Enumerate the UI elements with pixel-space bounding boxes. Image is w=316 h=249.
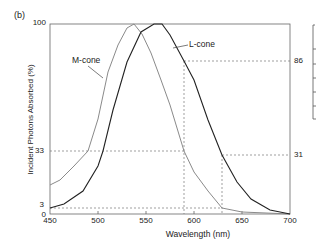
x-tick-650: 650 — [230, 216, 254, 225]
m-cone-leader — [88, 66, 103, 78]
right-tick-31: 31 — [294, 150, 303, 159]
dashed-guides — [50, 61, 290, 214]
right-inset-box — [313, 25, 316, 119]
y-tick-3: 3 — [24, 200, 44, 209]
l-cone-label: L-cone — [189, 39, 215, 49]
x-axis-ticks — [98, 211, 242, 214]
y-tick-100: 100 — [26, 18, 46, 27]
right-tick-86: 86 — [294, 56, 303, 65]
y-axis-label: Incident Photons Absorbed (%) — [26, 50, 35, 190]
x-tick-550: 550 — [134, 216, 158, 225]
l-cone-curve — [50, 24, 290, 214]
m-cone-label: M-cone — [72, 55, 100, 65]
x-tick-600: 600 — [182, 216, 206, 225]
x-tick-500: 500 — [86, 216, 110, 225]
chart-plot-area — [0, 0, 316, 249]
x-tick-700: 700 — [278, 216, 302, 225]
x-axis-label: Wavelength (nm) — [138, 229, 258, 239]
x-tick-450: 450 — [38, 216, 62, 225]
